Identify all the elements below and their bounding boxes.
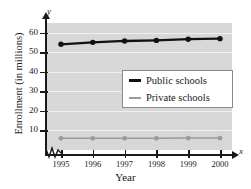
data-point <box>59 136 64 141</box>
x-axis-title: Year <box>0 171 251 183</box>
data-point <box>122 38 127 43</box>
data-point <box>122 136 127 141</box>
legend-label-private: Private schools <box>146 92 210 103</box>
legend-item-public-schools: Public schools <box>129 72 207 89</box>
chart-legend: Public schools Private schools <box>122 70 233 108</box>
series-line-public-schools <box>61 39 220 45</box>
data-point <box>58 42 63 47</box>
data-point <box>154 38 159 43</box>
legend-item-private-schools: Private schools <box>129 89 210 106</box>
legend-label-public: Public schools <box>146 75 207 86</box>
legend-swatch-public-icon <box>129 79 141 82</box>
data-point <box>90 136 95 141</box>
data-point <box>218 136 223 141</box>
data-point <box>154 136 159 141</box>
data-point <box>217 36 222 41</box>
y-axis-title: Enrollment (in millions) <box>13 9 24 159</box>
chart-figure: y x 102030405060199519961997199819992000… <box>0 0 251 189</box>
data-point <box>186 37 191 42</box>
data-point <box>90 40 95 45</box>
legend-swatch-private-icon <box>129 97 141 99</box>
data-point <box>186 136 191 141</box>
